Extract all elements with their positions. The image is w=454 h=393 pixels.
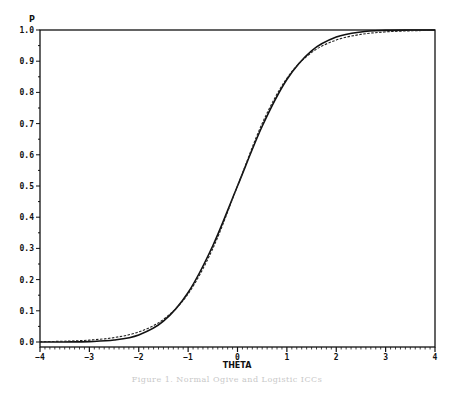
y-tick-label: 0.6	[20, 151, 35, 160]
y-axis: 0.00.10.20.30.40.50.60.70.80.91.0	[20, 26, 40, 347]
y-tick-label: 0.7	[20, 120, 35, 129]
y-tick-label: 0.2	[20, 276, 35, 285]
x-tick-label: −2	[134, 353, 144, 362]
y-axis-title: P	[29, 15, 35, 24]
x-tick-label: 1	[284, 353, 289, 362]
logistic-curve	[40, 30, 435, 341]
figure-caption: Figure 1. Normal Ogive and Logistic ICCs	[0, 375, 454, 384]
x-tick-label: −1	[183, 353, 193, 362]
x-tick-label: −4	[35, 353, 45, 362]
y-tick-label: 0.1	[20, 307, 35, 316]
y-tick-label: 0.0	[20, 338, 35, 347]
y-tick-label: 0.3	[20, 244, 35, 253]
y-tick-label: 0.4	[20, 213, 35, 222]
plot-frame	[40, 30, 435, 347]
y-tick-label: 0.5	[20, 182, 35, 191]
x-tick-label: −3	[85, 353, 95, 362]
x-tick-label: 4	[433, 353, 438, 362]
x-axis-title: THETA	[223, 361, 252, 370]
x-tick-label: 2	[334, 353, 339, 362]
chart: 0.00.10.20.30.40.50.60.70.80.91.0 −4−3−2…	[0, 0, 454, 393]
y-tick-label: 1.0	[20, 26, 35, 35]
y-tick-label: 0.8	[20, 88, 35, 97]
x-tick-label: 3	[383, 353, 388, 362]
x-axis: −4−3−2−101234	[35, 347, 437, 362]
y-tick-label: 0.9	[20, 57, 35, 66]
